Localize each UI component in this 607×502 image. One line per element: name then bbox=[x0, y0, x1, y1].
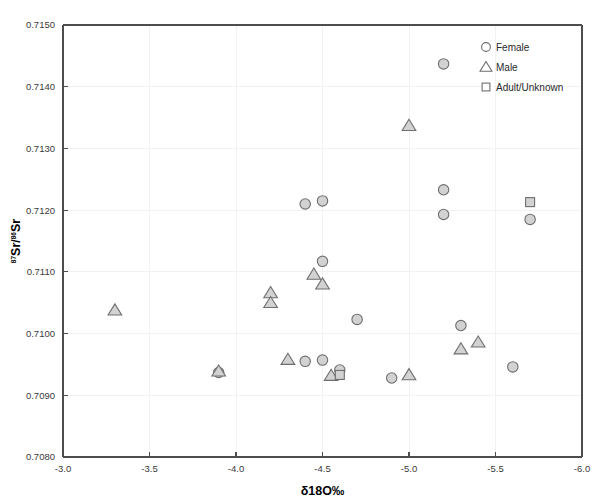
x-tick-label: -5.0 bbox=[401, 463, 417, 474]
data-point bbox=[471, 336, 485, 347]
data-point bbox=[526, 198, 535, 207]
y-tick-label: 0.7110 bbox=[27, 266, 55, 277]
x-tick-label: -3.0 bbox=[55, 463, 71, 474]
legend-marker-square bbox=[482, 83, 490, 91]
data-point bbox=[300, 199, 310, 209]
y-tick-label: 0.7130 bbox=[26, 143, 55, 154]
legend-label: Male bbox=[496, 62, 518, 73]
data-point bbox=[317, 256, 327, 266]
data-point bbox=[317, 355, 327, 365]
data-point bbox=[438, 185, 448, 195]
legend-marker-circle bbox=[482, 43, 491, 52]
y-tick-label: 0.7150 bbox=[26, 19, 55, 30]
axis-titles: δ18O‰87Sr/86Sr bbox=[9, 219, 345, 498]
chart-legend: FemaleMaleAdult/Unknown bbox=[480, 42, 563, 93]
data-points bbox=[108, 59, 535, 384]
y-tick-label: 0.7090 bbox=[26, 390, 55, 401]
x-tick-label: -4.0 bbox=[228, 463, 244, 474]
legend-marker-triangle bbox=[480, 62, 492, 72]
y-tick-label: 0.7120 bbox=[26, 205, 55, 216]
y-tick-label: 0.7140 bbox=[26, 81, 55, 92]
data-point bbox=[335, 370, 344, 379]
data-point bbox=[456, 320, 466, 330]
series-male bbox=[108, 119, 485, 380]
data-point bbox=[402, 119, 416, 130]
legend-label: Adult/Unknown bbox=[496, 82, 563, 93]
data-point bbox=[508, 362, 518, 372]
legend-label: Female bbox=[496, 42, 530, 53]
y-axis-title: 87Sr/86Sr bbox=[9, 219, 23, 263]
data-point bbox=[281, 353, 295, 364]
data-point bbox=[300, 356, 310, 366]
data-point bbox=[317, 196, 327, 206]
chart-canvas: -3.0-3.5-4.0-4.5-5.0-5.5-6.0 0.70800.709… bbox=[0, 0, 607, 502]
data-point bbox=[438, 59, 448, 69]
scatter-plot-figure: -3.0-3.5-4.0-4.5-5.0-5.5-6.0 0.70800.709… bbox=[0, 0, 607, 502]
y-tick-label: 0.7100 bbox=[26, 328, 55, 339]
data-point bbox=[307, 268, 321, 279]
data-point bbox=[402, 369, 416, 380]
data-point bbox=[108, 304, 122, 315]
y-tick-labels: 0.70800.70900.71000.71100.71200.71300.71… bbox=[26, 19, 55, 462]
data-point bbox=[438, 209, 448, 219]
x-tick-label: -6.0 bbox=[574, 463, 590, 474]
x-axis-title: δ18O‰ bbox=[301, 484, 345, 498]
series-female bbox=[214, 59, 536, 384]
x-tick-labels: -3.0-3.5-4.0-4.5-5.0-5.5-6.0 bbox=[55, 463, 590, 474]
x-tick-label: -5.5 bbox=[487, 463, 503, 474]
x-tick-label: -3.5 bbox=[141, 463, 157, 474]
x-tick-label: -4.5 bbox=[314, 463, 330, 474]
data-point bbox=[352, 314, 362, 324]
series-adult-unknown bbox=[335, 198, 534, 380]
y-tick-label: 0.7080 bbox=[26, 451, 55, 462]
data-point bbox=[525, 214, 535, 224]
data-point bbox=[387, 373, 397, 383]
data-point bbox=[454, 343, 468, 354]
